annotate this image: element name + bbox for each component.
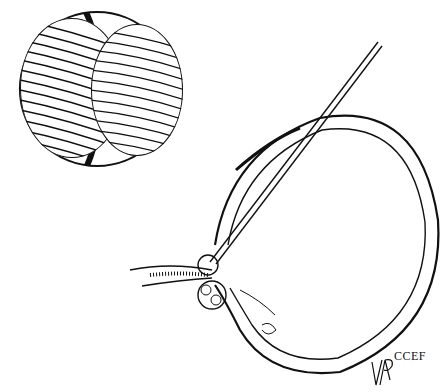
aspiration-needle bbox=[210, 42, 382, 264]
medical-illustration: CCEF bbox=[0, 0, 448, 392]
two-cell-embryo bbox=[20, 10, 185, 180]
illustration-drawing bbox=[0, 0, 448, 392]
artist-signature bbox=[372, 360, 392, 385]
ovarian-follicle bbox=[130, 116, 438, 373]
credit-label: CCEF bbox=[394, 349, 426, 364]
